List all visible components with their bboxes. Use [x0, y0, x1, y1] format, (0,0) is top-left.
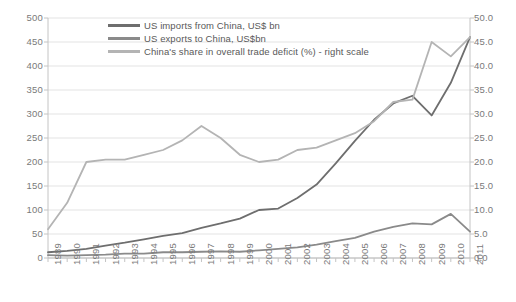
y-axis-right-label: 15.0: [474, 180, 493, 191]
legend-label: US exports to China, US$bn: [144, 33, 266, 44]
x-axis-label: 1998: [225, 243, 236, 265]
legend-swatch-icon: [108, 50, 140, 53]
legend-swatch-icon: [108, 37, 140, 40]
x-axis-label: 2002: [301, 243, 312, 265]
chart-legend: US imports from China, US$ bnUS exports …: [108, 20, 369, 57]
x-axis-label: 1991: [90, 243, 101, 265]
legend-item: US imports from China, US$ bn: [108, 20, 369, 31]
y-axis-right-label: 35.0: [474, 84, 493, 95]
x-axis-label: 1992: [110, 243, 121, 265]
x-axis-label: 2000: [263, 243, 274, 265]
y-axis-right-label: 30.0: [474, 108, 493, 119]
series-line-left: [48, 37, 470, 252]
x-axis-label: 2001: [282, 243, 293, 265]
y-axis-left-label: 300: [27, 108, 43, 119]
legend-swatch-icon: [108, 24, 140, 27]
y-axis-right-label: 40.0: [474, 60, 493, 71]
y-axis-left-label: 50: [32, 228, 43, 239]
x-axis-label: 2004: [340, 243, 351, 265]
legend-item: China's share in overall trade deficit (…: [108, 46, 369, 57]
legend-item: US exports to China, US$bn: [108, 33, 369, 44]
y-axis-left-label: 500: [27, 12, 43, 23]
x-axis-label: 2008: [416, 243, 427, 265]
y-axis-right-label: 25.0: [474, 132, 493, 143]
y-axis-left-label: 400: [27, 60, 43, 71]
x-axis-label: 1997: [205, 243, 216, 265]
x-axis-label: 1990: [71, 243, 82, 265]
y-axis-right-label: 50.0: [474, 12, 493, 23]
y-axis-right-label: 45.0: [474, 36, 493, 47]
y-axis-right-label: 10.0: [474, 204, 493, 215]
y-axis-right-label: 5.0: [474, 228, 488, 239]
y-axis-left-label: 450: [27, 36, 43, 47]
x-axis-label: 2009: [436, 243, 447, 265]
x-axis-label: 2011: [474, 244, 485, 265]
x-axis-label: 2005: [359, 243, 370, 265]
x-axis-label: 1993: [129, 243, 140, 265]
x-axis-label: 2007: [397, 243, 408, 265]
x-axis-label: 1995: [167, 243, 178, 265]
y-axis-left-label: 100: [27, 204, 43, 215]
y-axis-left-label: 250: [27, 132, 43, 143]
x-axis-label: 2010: [455, 243, 466, 265]
y-axis-left-label: 350: [27, 84, 43, 95]
x-axis-label: 1999: [244, 243, 255, 265]
x-axis-label: 1994: [148, 243, 159, 265]
line-chart: US imports from China, US$ bnUS exports …: [0, 0, 516, 302]
y-axis-left-label: 150: [27, 180, 43, 191]
x-axis-label: 1989: [52, 243, 63, 265]
legend-label: China's share in overall trade deficit (…: [144, 46, 369, 57]
x-axis-label: 2006: [378, 243, 389, 265]
x-axis-label: 2003: [321, 243, 332, 265]
y-axis-left-label: 200: [27, 156, 43, 167]
y-axis-right-label: 20.0: [474, 156, 493, 167]
legend-label: US imports from China, US$ bn: [144, 20, 280, 31]
y-axis-left-label: 0: [38, 252, 43, 263]
x-axis-label: 1996: [186, 243, 197, 265]
